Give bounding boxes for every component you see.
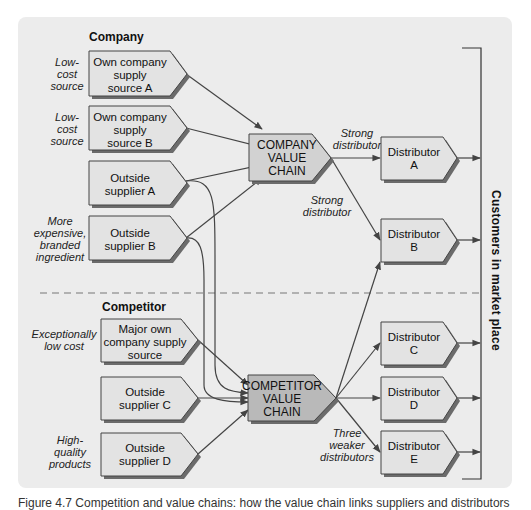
box-label-line: Distributor [388,228,441,240]
box-label-line: source [128,349,163,361]
box-label-line: supplier B [104,240,155,252]
outside-supplier-b: Outside supplier B [89,216,190,263]
box-label-line: Distributor [388,386,441,398]
company-source-b: Own company supply source B [89,106,190,153]
link-supplier-b-to-company-chain [186,178,262,238]
note-line: Exceptionally [32,328,98,340]
box-label-line: supplier D [119,455,171,467]
box-label-line: Own company [93,56,167,68]
market-bracket [462,48,481,479]
box-label-line: company supply [103,336,186,348]
note-line: quality [54,446,87,458]
distributor-a: Distributor A [381,137,460,183]
figure-caption: Figure 4.7 Competition and value chains:… [18,496,510,510]
edge-label-line: Strong [341,127,374,139]
chain-label-line: CHAIN [268,164,305,178]
chain-label-line: CHAIN [263,405,300,419]
chain-label-line: COMPETITOR [242,379,322,393]
box-label-line: C [410,344,418,356]
distributor-e: Distributor E [381,431,460,477]
competitor-major-source-note: Exceptionally low cost [32,328,98,352]
box-label-line: supply [113,69,146,81]
box-label-line: Outside [125,386,165,398]
box-label-line: Own company [93,111,167,123]
company-source-b-note: Low- cost source [50,111,83,147]
box-label-line: Major own [118,323,171,335]
note-line: ingredient [36,251,85,263]
box-label-line: Distributor [388,440,441,452]
box-label-line: Distributor [388,146,441,158]
link-supplier-d-to-competitor-chain [198,410,248,454]
edge-label-weaker: Three weaker distributors [320,427,374,463]
edge-label-strong-b: Strong distributor [303,194,353,218]
distributor-c: Distributor C [381,322,460,368]
outside-supplier-d-note: High- quality products [48,434,92,470]
note-line: cost [57,68,78,80]
note-line: More [47,215,72,227]
box-label-line: D [410,399,418,411]
note-line: products [48,458,92,470]
company-source-a-note: Low- cost source [50,56,83,92]
distributor-b: Distributor B [381,219,460,265]
note-line: cost [57,123,78,135]
outside-supplier-b-note: More expensive, branded ingredient [34,215,87,263]
box-label-line: source B [107,137,153,149]
link-competitor-chain-to-distributor-b [336,262,380,398]
competitor-value-chain: COMPETITOR VALUE CHAIN [242,375,339,424]
note-line: branded [40,239,81,251]
edge-label-line: Three [333,427,362,439]
box-label-line: Outside [110,227,150,239]
distributor-d: Distributor D [381,377,460,423]
note-line: Low- [55,111,79,123]
edge-label-line: distributor [303,206,353,218]
market-label: Customers in market place [489,190,503,351]
outside-supplier-a: Outside supplier A [89,161,190,208]
link-supplier-a-to-competitor-chain [186,181,248,393]
outside-supplier-d: Outside supplier D [101,433,201,479]
section-label-competitor: Competitor [102,300,166,314]
link-source-a-to-company-chain [186,74,262,129]
note-line: low cost [44,340,85,352]
box-label-line: E [410,453,418,465]
chain-label-line: COMPANY [257,138,317,152]
box-label-line: supply [113,124,146,136]
outside-supplier-c: Outside supplier C [101,377,201,423]
company-source-a: Own company supply source A [89,51,190,99]
edge-label-line: distributors [320,451,374,463]
link-competitor-chain-to-distributor-c [336,343,380,398]
edge-label-line: weaker [329,439,366,451]
box-label-line: Distributor [388,331,441,343]
box-label-line: A [410,159,418,171]
note-line: source [50,135,83,147]
box-label-line: supplier A [105,185,156,197]
chain-label-line: VALUE [263,392,301,406]
section-label-company: Company [89,30,144,44]
box-label-line: source A [108,82,153,94]
competitor-major-source: Major own company supply source [101,319,201,365]
note-line: Low- [55,56,79,68]
chain-label-line: VALUE [268,151,306,165]
link-major-source-to-competitor-chain [198,340,248,385]
box-label-line: supplier C [119,399,171,411]
note-line: expensive, [34,227,87,239]
edge-label-line: Strong [311,194,344,206]
note-line: source [50,80,83,92]
edge-label-strong-a: Strong distributor [333,127,383,151]
box-label-line: B [410,241,418,253]
note-line: High- [57,434,84,446]
edge-label-line: distributor [333,139,383,151]
box-label-line: Outside [110,172,150,184]
box-label-line: Outside [125,442,165,454]
company-value-chain: COMPANY VALUE CHAIN [249,134,334,184]
